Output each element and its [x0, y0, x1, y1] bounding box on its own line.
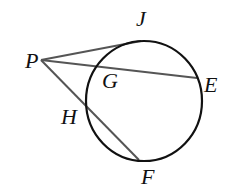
- secant-segment-PE: [41, 60, 197, 78]
- label-J: J: [136, 8, 146, 30]
- secant-segment-PF: [41, 60, 139, 160]
- label-E: E: [204, 74, 217, 96]
- label-G: G: [102, 70, 118, 92]
- label-H: H: [61, 106, 77, 128]
- diagram-canvas: [0, 0, 227, 193]
- label-P: P: [25, 50, 38, 72]
- geometry-diagram: J P G E H F: [0, 0, 227, 193]
- label-F: F: [141, 166, 154, 188]
- circle: [86, 41, 202, 161]
